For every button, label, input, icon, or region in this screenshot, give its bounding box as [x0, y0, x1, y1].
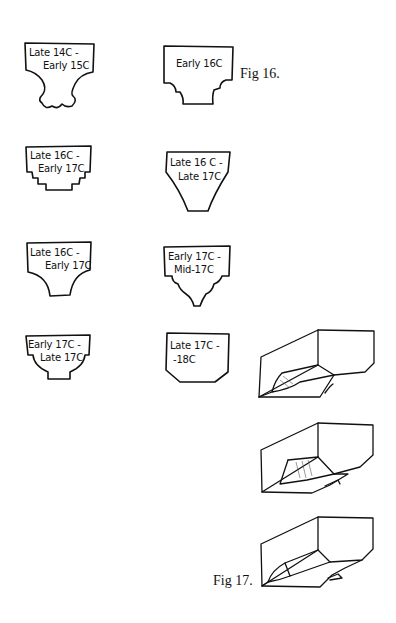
- profile-label-p6-line2: Mid-17C: [174, 264, 214, 276]
- profile-label-p7-line1: Early 17C -: [28, 339, 81, 351]
- profile-label-p1-line1: Late 14C -: [29, 47, 78, 59]
- stop-chamfer-sketch-3: [261, 517, 373, 587]
- profile-label-p6-line1: Early 17C -: [168, 251, 221, 263]
- fig16-caption: Fig 16.: [240, 66, 280, 82]
- profile-label-p7-line2: Late 17C: [40, 352, 83, 364]
- profile-label-p8-line2: -18C: [173, 354, 196, 366]
- profile-shape-p2: [164, 46, 233, 104]
- fig17-caption: Fig 17.: [213, 573, 253, 589]
- profile-label-p5-line1: Late 16C -: [30, 247, 79, 259]
- profile-label-p4-line1: Late 16 C -: [170, 157, 222, 169]
- profiles-drawing: [0, 0, 396, 623]
- profile-label-p3-line2: Early 17C: [38, 163, 84, 175]
- stop-chamfer-sketch-1: [259, 330, 374, 397]
- stop-chamfer-sketch-2: [261, 423, 373, 493]
- profile-label-p1-line2: Early 15C: [43, 60, 89, 72]
- profile-label-p3-line1: Late 16C -: [30, 150, 79, 162]
- profile-label-p8-line1: Late 17C -: [170, 340, 219, 352]
- profile-label-p4-line2: Late 17C: [178, 171, 221, 183]
- profile-label-p2-line1: Early 16C: [176, 58, 222, 70]
- profile-label-p5-line2: Early 17C: [45, 260, 91, 272]
- drawing-canvas: Late 14C - Early 15C Early 16C Late 16C …: [0, 0, 396, 623]
